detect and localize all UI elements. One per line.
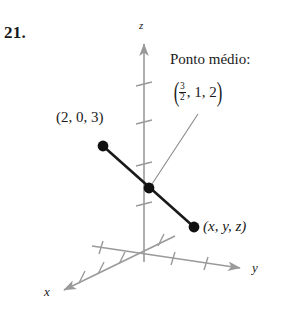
point-marker-endpoint-1 <box>98 141 109 152</box>
point-marker-endpoint-2 <box>189 222 200 233</box>
z-axis <box>136 44 152 262</box>
problem-number: 21. <box>4 24 26 41</box>
axis-label-y: y <box>252 261 258 274</box>
coordinate-axes-graphic <box>0 0 283 311</box>
axis-label-z: z <box>139 20 143 31</box>
fraction-denominator: 2 <box>179 92 186 103</box>
midpoint-remaining-coordinates: , 1, 2 <box>187 85 217 100</box>
point-label-endpoint-1: (2, 0, 3) <box>56 110 104 125</box>
midpoint-caption: Ponto médio: <box>170 52 250 67</box>
right-parenthesis: ) <box>216 79 222 106</box>
axis-label-x: x <box>44 285 50 298</box>
midpoint-coordinates: ( 3 2 , 1, 2 ) <box>172 79 224 106</box>
left-parenthesis: ( <box>174 79 180 106</box>
midpoint-leader-line <box>152 114 198 184</box>
x-axis <box>64 234 175 290</box>
fraction-numerator: 3 <box>179 82 186 92</box>
fraction-three-halves: 3 2 <box>179 82 186 103</box>
point-marker-midpoint <box>144 183 155 194</box>
point-label-endpoint-2: (x, y, z) <box>203 219 246 234</box>
midpoint-3d-figure: 21. Ponto médio: ( 3 2 , 1, 2 ) (2, 0, 3… <box>0 0 283 311</box>
